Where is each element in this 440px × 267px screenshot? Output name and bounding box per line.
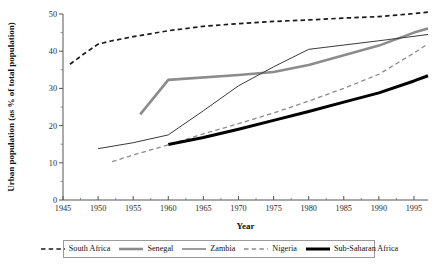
y-tick-label: 50 (49, 10, 57, 19)
y-tick-label: 40 (49, 47, 57, 56)
series-group (70, 12, 428, 162)
x-tick-label: 1985 (336, 204, 352, 213)
legend-item: Sub-Saharan Africa (301, 244, 402, 254)
legend-item-label: Nigeria (272, 245, 297, 253)
series-line (168, 76, 428, 145)
x-tick-label: 1975 (265, 204, 281, 213)
y-tick-label: 30 (49, 84, 57, 93)
chart-legend: South AfricaSenegalZambiaNigeriaSub-Saha… (63, 240, 375, 258)
legend-item-label: Senegal (147, 245, 173, 253)
y-tick-label: 10 (49, 159, 57, 168)
y-axis: 01020304050 (49, 10, 63, 205)
legend-swatch-icon (181, 244, 207, 254)
line-chart-plot: 01020304050 1945195019551960196519701975… (0, 0, 440, 267)
series-line (140, 29, 428, 115)
chart-figure: 01020304050 1945195019551960196519701975… (0, 0, 440, 267)
legend-swatch-icon (118, 244, 144, 254)
legend-swatch-icon (40, 244, 66, 254)
y-tick-label: 20 (49, 122, 57, 131)
y-axis-title: Urban population (as % of total populati… (6, 22, 16, 192)
legend-swatch-icon (305, 244, 331, 254)
x-tick-label: 1990 (371, 204, 387, 213)
legend-item-label: Sub-Saharan Africa (334, 245, 398, 253)
x-axis-title: Year (237, 221, 255, 231)
legend-item: Zambia (177, 244, 239, 254)
x-tick-label: 1955 (125, 204, 141, 213)
legend-item-label: Zambia (210, 245, 235, 253)
legend-item: Nigeria (239, 244, 301, 254)
series-line (112, 44, 428, 162)
legend-swatch-icon (243, 244, 269, 254)
x-tick-label: 1950 (90, 204, 106, 213)
x-tick-label: 1970 (230, 204, 246, 213)
legend-item-label: South Africa (69, 245, 111, 253)
legend-item: South Africa (36, 244, 115, 254)
x-tick-label: 1945 (55, 204, 71, 213)
x-axis: 1945195019551960196519701975198019851990… (55, 196, 428, 213)
x-tick-label: 1995 (406, 204, 422, 213)
series-line (70, 12, 428, 64)
x-tick-label: 1965 (195, 204, 211, 213)
x-tick-label: 1980 (300, 204, 316, 213)
legend-item: Senegal (114, 244, 177, 254)
x-tick-label: 1960 (160, 204, 176, 213)
